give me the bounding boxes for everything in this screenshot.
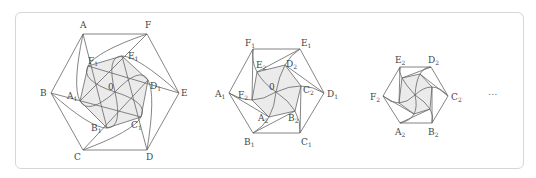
vertex-label: B1 — [244, 137, 254, 148]
vertex-label: D1 — [327, 89, 338, 100]
vertex-label: D2 — [286, 59, 297, 70]
stage-1-figure: ABCDEFA1B1C1D1E1F10 — [40, 20, 188, 162]
vertex-label: A1 — [66, 91, 77, 102]
vertex-label: A — [79, 20, 87, 30]
connector-segment — [300, 86, 301, 133]
vertex-label: B — [40, 88, 47, 98]
vertex-label: C1 — [131, 120, 142, 131]
vertex-label: D1 — [150, 81, 161, 92]
vertex-label: E1 — [301, 38, 311, 49]
vertex-label: A1 — [214, 89, 225, 100]
continuation-ellipsis: ... — [488, 86, 498, 97]
vertex-label: E2 — [395, 55, 406, 66]
center-label: 0 — [269, 82, 275, 92]
vertex-label: C2 — [303, 85, 314, 96]
center-label: 0 — [108, 82, 114, 92]
vertex-label: E1 — [128, 51, 138, 62]
vertex-label: F — [145, 20, 151, 30]
hexagon-spiral-diagram: ABCDEFA1B1C1D1E1F10F1A1B1C1D1E1E2F2A2B2C… — [0, 0, 536, 178]
vertex-label: F2 — [238, 90, 248, 101]
vertex-label: E2 — [256, 60, 267, 71]
vertex-label: C1 — [301, 137, 312, 148]
vertex-label: D2 — [428, 55, 439, 66]
vertex-label: C — [74, 152, 81, 162]
stage-2-figure: F1A1B1C1D1E1E2F2A2B2C2D20 — [214, 38, 338, 148]
stage-3-figure: E2F2A2B2C2D2 — [370, 55, 462, 138]
connector-segment — [252, 49, 253, 100]
vertex-label: B2 — [428, 127, 439, 138]
vertex-label: F1 — [88, 56, 98, 67]
vertex-label: F1 — [245, 38, 255, 49]
vertex-label: B1 — [91, 123, 101, 134]
vertex-label: D — [146, 152, 153, 162]
vertex-label: F2 — [370, 92, 380, 103]
vertex-label: A2 — [394, 127, 406, 138]
vertex-label: C2 — [451, 92, 462, 103]
vertex-label: E — [181, 88, 188, 98]
